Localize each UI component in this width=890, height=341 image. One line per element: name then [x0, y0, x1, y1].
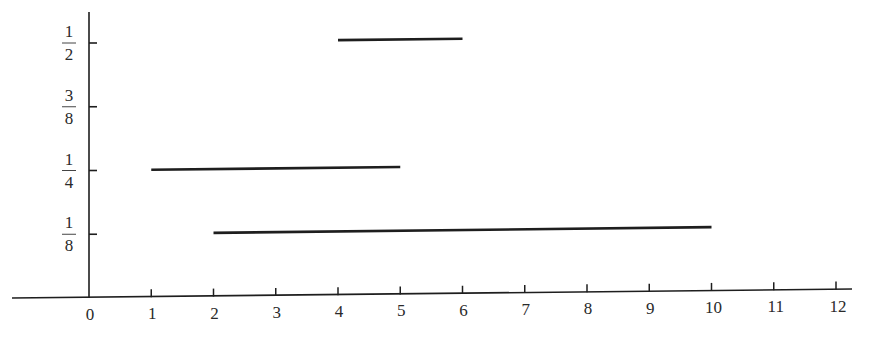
segment-2 [214, 227, 712, 233]
x-tick: 8 [584, 284, 593, 318]
axes [12, 12, 852, 298]
y-tick: 18 [62, 213, 97, 255]
x-tick-label: 1 [148, 304, 157, 323]
y-tick: 14 [62, 150, 97, 192]
y-tick-denominator: 2 [65, 45, 74, 64]
x-tick: 7 [522, 285, 531, 319]
y-tick: 12 [62, 22, 97, 64]
x-tick: 11 [768, 282, 784, 316]
x-tick-label: 12 [830, 297, 847, 316]
y-tick-numerator: 1 [65, 150, 74, 169]
x-tick: 9 [646, 284, 655, 318]
y-tick-numerator: 1 [65, 22, 74, 41]
x-tick-label: 7 [522, 300, 531, 319]
x-ticks: 0123456789101112 [86, 282, 847, 325]
x-tick: 12 [830, 282, 847, 316]
x-tick-label: 10 [705, 298, 722, 317]
x-tick: 10 [705, 283, 722, 317]
segment-3 [338, 39, 463, 40]
x-tick-label: 2 [210, 304, 219, 323]
y-tick-denominator: 8 [65, 109, 74, 128]
x-tick: 5 [397, 286, 406, 320]
y-tick-numerator: 3 [65, 86, 74, 105]
y-tick-denominator: 4 [65, 173, 74, 192]
x-tick-label: 4 [335, 302, 344, 321]
step-segments-chart: 18143812 0123456789101112 [0, 0, 890, 341]
x-tick: 6 [459, 286, 468, 320]
x-tick-label: 11 [768, 297, 784, 316]
x-tick: 4 [335, 287, 344, 321]
x-tick-label: 5 [397, 301, 406, 320]
x-tick: 3 [273, 288, 282, 322]
y-ticks: 18143812 [62, 22, 97, 255]
x-tick-label: 9 [646, 299, 655, 318]
x-axis [12, 289, 852, 298]
x-tick-label: 6 [459, 301, 468, 320]
segment-1 [151, 167, 400, 170]
x-tick: 1 [148, 289, 157, 323]
x-tick: 0 [86, 305, 95, 324]
y-tick: 38 [62, 86, 97, 128]
data-segments [151, 39, 711, 233]
x-tick-label: 8 [584, 299, 593, 318]
y-tick-numerator: 1 [65, 213, 74, 232]
x-tick-label: 3 [273, 303, 282, 322]
y-tick-denominator: 8 [65, 236, 74, 255]
x-tick: 2 [210, 289, 219, 323]
x-tick-label: 0 [86, 305, 95, 324]
